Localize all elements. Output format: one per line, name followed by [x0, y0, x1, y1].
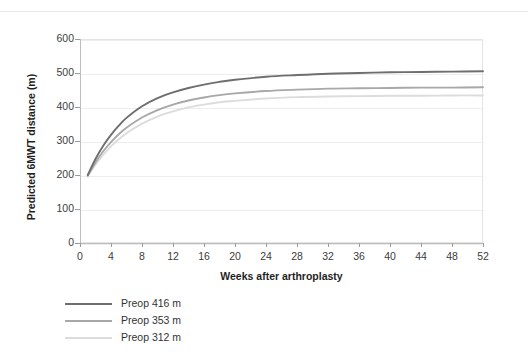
- x-tick-mark: [421, 243, 422, 247]
- y-tick-label: 400: [40, 101, 74, 112]
- legend: Preop 416 mPreop 353 mPreop 312 m: [65, 294, 181, 345]
- y-tick-label: 200: [40, 169, 74, 180]
- x-axis-title: Weeks after arthroplasty: [80, 270, 483, 282]
- x-tick-label: 0: [65, 250, 95, 262]
- legend-swatch-line: [65, 337, 112, 339]
- x-tick-mark: [204, 243, 205, 247]
- x-tick-mark: [390, 243, 391, 247]
- series-line: [88, 95, 483, 176]
- x-tick-mark: [297, 243, 298, 247]
- legend-item: Preop 312 m: [65, 328, 181, 345]
- x-tick-mark: [142, 243, 143, 247]
- legend-label: Preop 312 m: [121, 331, 181, 344]
- x-tick-label: 48: [437, 250, 467, 262]
- legend-swatch-line: [65, 320, 112, 322]
- x-tick-label: 44: [406, 250, 436, 262]
- y-tick-label: 100: [40, 203, 74, 214]
- x-tick-mark: [483, 243, 484, 247]
- x-tick-mark: [328, 243, 329, 247]
- x-tick-mark: [235, 243, 236, 247]
- x-tick-label: 28: [282, 250, 312, 262]
- x-tick-mark: [266, 243, 267, 247]
- x-tick-mark: [111, 243, 112, 247]
- x-tick-label: 32: [313, 250, 343, 262]
- legend-item: Preop 416 m: [65, 294, 181, 311]
- x-tick-mark: [80, 243, 81, 247]
- y-axis-title: Predicted 6MWT distance (m): [25, 45, 37, 249]
- legend-label: Preop 353 m: [121, 314, 181, 327]
- legend-item: Preop 353 m: [65, 311, 181, 328]
- x-tick-label: 24: [251, 250, 281, 262]
- series-line: [88, 87, 483, 175]
- top-divider: [0, 11, 528, 12]
- x-tick-label: 8: [127, 250, 157, 262]
- y-tick-label: 500: [40, 67, 74, 78]
- x-tick-label: 36: [344, 250, 374, 262]
- y-tick-label: 300: [40, 135, 74, 146]
- figure-container: 0100200300400500600 04812162024283236404…: [0, 0, 528, 358]
- legend-label: Preop 416 m: [121, 297, 181, 310]
- x-tick-mark: [359, 243, 360, 247]
- x-tick-label: 40: [375, 250, 405, 262]
- x-tick-mark: [452, 243, 453, 247]
- y-tick-label: 0: [40, 237, 74, 248]
- chart-series-group: [80, 39, 483, 243]
- x-tick-label: 12: [158, 250, 188, 262]
- x-tick-label: 20: [220, 250, 250, 262]
- x-axis-line: [80, 243, 484, 244]
- y-tick-label: 600: [40, 33, 74, 44]
- x-tick-label: 4: [96, 250, 126, 262]
- legend-swatch-line: [65, 303, 112, 305]
- x-tick-mark: [173, 243, 174, 247]
- x-tick-label: 16: [189, 250, 219, 262]
- x-tick-label: 52: [468, 250, 498, 262]
